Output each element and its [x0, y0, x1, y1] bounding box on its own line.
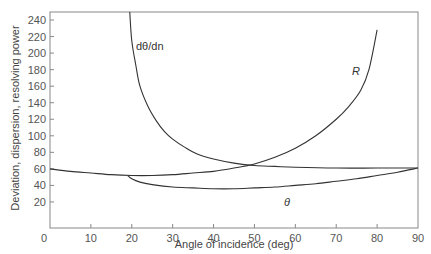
y-tick-label: 220 — [28, 31, 46, 43]
x-tick-label: 10 — [85, 232, 97, 244]
series-label-R: R — [352, 65, 360, 77]
y-tick-label: 140 — [28, 97, 46, 109]
y-tick-label: 120 — [28, 113, 46, 125]
y-tick-label: 180 — [28, 64, 46, 76]
y-tick-label: 60 — [34, 163, 46, 175]
y-tick-label: 40 — [34, 179, 46, 191]
x-tick-label: 90 — [412, 232, 424, 244]
series-line-2 — [128, 168, 418, 189]
series-label-theta: θ — [284, 196, 290, 208]
plot-frame — [50, 12, 418, 228]
x-tick-label: 70 — [330, 232, 342, 244]
y-tick-label: 100 — [28, 130, 46, 142]
y-tick-label: 200 — [28, 47, 46, 59]
y-tick-label: 240 — [28, 14, 46, 26]
x-axis-title: Angle of incidence (deg) — [175, 238, 294, 250]
y-tick-label: 80 — [34, 146, 46, 158]
y-tick-label: 160 — [28, 80, 46, 92]
chart: 20406080100120140160180200220240 0102030… — [0, 0, 431, 254]
x-tick-label: 0 — [41, 232, 47, 244]
data-series — [50, 12, 418, 189]
series-line-0 — [130, 12, 418, 168]
series-line-1 — [50, 30, 377, 176]
y-axis-title: Deviation, dispersion, resolving power — [9, 25, 21, 211]
x-tick-label: 80 — [371, 232, 383, 244]
series-label-dtheta-dn: dθ/dn — [136, 40, 164, 52]
x-tick-label: 20 — [126, 232, 138, 244]
y-tick-label: 20 — [34, 196, 46, 208]
